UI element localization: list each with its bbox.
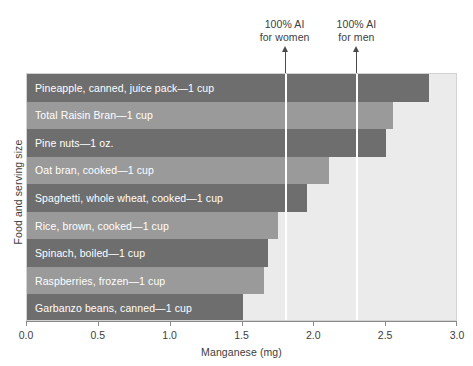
bar-label: Raspberries, frozen—1 cup [35, 267, 165, 295]
x-axis-tick [385, 321, 386, 326]
bar-row: Pine nuts—1 oz. [27, 129, 457, 157]
x-axis-title: Manganese (mg) [26, 346, 457, 358]
plot-area: Pineapple, canned, juice pack—1 cupTotal… [26, 73, 457, 321]
annotation-women-arrow-icon [285, 51, 286, 73]
bar-row: Pineapple, canned, juice pack—1 cup [27, 74, 457, 102]
x-axis-tick [456, 321, 457, 326]
x-axis-tick-label: 1.5 [222, 329, 262, 341]
annotation-men-line2: for men [311, 31, 401, 44]
bar-row: Rice, brown, cooked—1 cup [27, 212, 457, 240]
reference-line-men [356, 74, 358, 320]
x-axis-tick [26, 321, 27, 326]
bar-row: Spaghetti, whole wheat, cooked—1 cup [27, 184, 457, 212]
bar-label: Spinach, boiled—1 cup [35, 239, 145, 267]
bar-row: Garbanzo beans, canned—1 cup [27, 294, 457, 321]
bar-row: Total Raisin Bran—1 cup [27, 102, 457, 130]
x-axis-tick-label: 0.5 [78, 329, 118, 341]
x-axis-tick [313, 321, 314, 326]
annotation-men-label: 100% AI for men [311, 18, 401, 43]
x-axis-tick-label: 2.5 [365, 329, 405, 341]
x-axis-tick [170, 321, 171, 326]
x-axis-tick-label: 0.0 [6, 329, 46, 341]
x-axis-tick-label: 2.0 [293, 329, 333, 341]
bar-label: Pine nuts—1 oz. [35, 129, 114, 157]
annotation-men-arrow-icon [356, 51, 357, 73]
x-axis-tick-label: 3.0 [437, 329, 473, 341]
reference-line-women [285, 74, 287, 320]
bar-label: Garbanzo beans, canned—1 cup [35, 294, 192, 321]
manganese-bar-chart: 100% AI for women 100% AI for men Pineap… [0, 0, 473, 366]
bar-label: Oat bran, cooked—1 cup [35, 157, 154, 185]
annotation-men-line1: 100% AI [311, 18, 401, 31]
bar-row: Spinach, boiled—1 cup [27, 239, 457, 267]
bar-label: Pineapple, canned, juice pack—1 cup [35, 74, 214, 102]
bar-row: Oat bran, cooked—1 cup [27, 157, 457, 185]
bar-row: Raspberries, frozen—1 cup [27, 267, 457, 295]
bar-label: Total Raisin Bran—1 cup [35, 102, 153, 130]
x-axis-tick [98, 321, 99, 326]
bar-label: Spaghetti, whole wheat, cooked—1 cup [35, 184, 223, 212]
bar-label: Rice, brown, cooked—1 cup [35, 212, 169, 240]
x-axis [26, 321, 457, 322]
x-axis-tick-label: 1.0 [150, 329, 190, 341]
y-axis-title: Food and serving size [12, 122, 24, 262]
x-axis-tick [242, 321, 243, 326]
